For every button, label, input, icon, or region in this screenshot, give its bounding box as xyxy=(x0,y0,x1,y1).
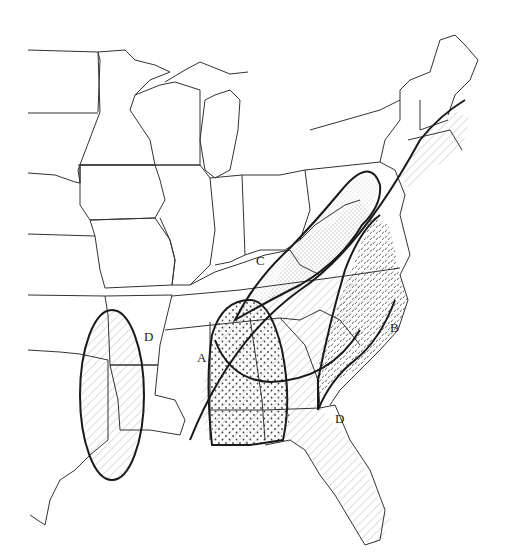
region-label-b: B xyxy=(390,320,399,336)
range-map: A B C D D xyxy=(0,0,516,560)
map-svg xyxy=(0,0,516,560)
region-label-c: C xyxy=(256,253,265,269)
region-label-d-west: D xyxy=(144,329,153,345)
region-label-d-east: D xyxy=(335,411,344,427)
region-label-a: A xyxy=(197,350,206,366)
